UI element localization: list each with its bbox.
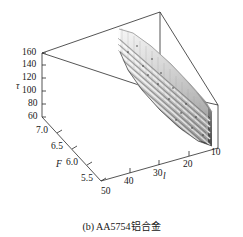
x-tick-label-30: 30 [153,169,163,179]
z-axis-ticks [42,53,46,117]
z-tick-label-60: 60 [28,112,38,122]
y-tick-label-6-0: 6.0 [66,158,78,168]
caption-text: (b) AA5754铝合金 [82,221,160,232]
z-tick-label-160: 160 [22,48,36,58]
x-axis-label: l [163,172,166,182]
z-tick-label-80: 80 [28,99,38,109]
figure-caption: (b) AA5754铝合金 [0,218,243,233]
z-tick-label-120: 120 [22,73,36,83]
x-tick-label-50: 50 [101,187,111,197]
z-tick-label-100: 100 [22,86,36,96]
x-tick-label-10: 10 [211,148,221,158]
y-axis-label: F [56,160,62,170]
surface-back-face [118,29,208,143]
surface-mesh [112,26,212,160]
x-tick-label-20: 20 [183,160,193,170]
figure-3d-surface-plot: τ 160 140 120 100 80 60 F 7.0 6.5 6.0 5.… [0,0,243,237]
z-tick-label-140: 140 [22,60,36,70]
x-tick-label-40: 40 [124,177,134,187]
y-tick-label-6-5: 6.5 [51,142,63,152]
z-axis-label: τ [16,82,19,92]
y-tick-label-7-0: 7.0 [36,126,48,136]
y-tick-label-5-5: 5.5 [81,174,93,184]
